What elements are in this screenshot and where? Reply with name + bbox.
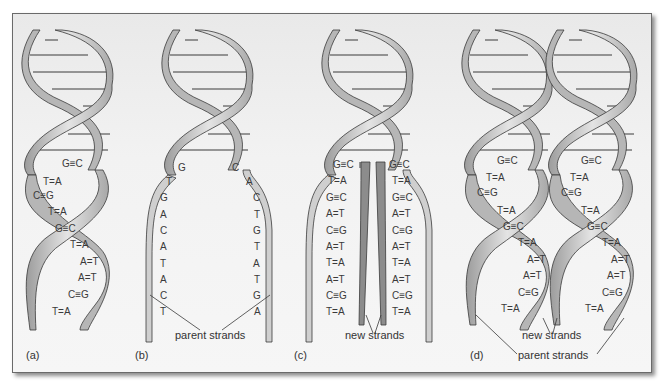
panel-label-c: (c) <box>294 349 307 361</box>
base-label: C≡G <box>477 187 498 198</box>
base-label: A <box>254 306 261 317</box>
base-label: G <box>178 162 186 173</box>
base-label: T=A <box>326 257 345 268</box>
base-pair: C≡G <box>68 289 89 300</box>
panel-label-d: (d) <box>470 349 483 361</box>
base-label: C≡G <box>561 187 582 198</box>
base-label: C≡G <box>326 225 347 236</box>
base-label: G≡C <box>581 155 602 166</box>
base-pair: G≡C <box>55 223 76 234</box>
base-label: G≡C <box>503 221 524 232</box>
base-label: T <box>160 306 166 317</box>
base-label: G≡C <box>326 192 347 203</box>
base-label: T <box>254 241 260 252</box>
base-label: A <box>160 274 167 285</box>
base-label: A <box>160 209 167 220</box>
base-label: T=A <box>602 237 621 248</box>
base-label: A=T <box>611 254 630 265</box>
base-pair: T=A <box>70 239 89 250</box>
base-label: T=A <box>328 175 347 186</box>
base-pair: A=T <box>78 272 97 283</box>
base-label: T=A <box>501 303 520 314</box>
base-label: G <box>253 290 261 301</box>
base-label: A=T <box>392 241 411 252</box>
base-label: G≡C <box>389 159 410 170</box>
base-label: T=A <box>497 205 516 216</box>
base-label: T <box>254 209 260 220</box>
base-label: A=T <box>326 208 345 219</box>
base-label: T=A <box>392 175 411 186</box>
base-label: C <box>232 162 239 173</box>
base-label: T=A <box>581 205 600 216</box>
base-label: T=A <box>392 306 411 317</box>
panel-a-helix <box>22 30 113 330</box>
base-label: T <box>254 274 260 285</box>
base-label: A <box>160 241 167 252</box>
base-pair: T=A <box>43 176 62 187</box>
panel-c-helix <box>306 30 432 342</box>
base-label: T=A <box>585 303 604 314</box>
base-pair: T=A <box>48 206 67 217</box>
base-pair: T=A <box>52 306 71 317</box>
base-label: A=T <box>326 274 345 285</box>
base-label: A=T <box>326 241 345 252</box>
base-label: C≡G <box>602 287 623 298</box>
base-label: T=A <box>392 257 411 268</box>
base-pair: G≡C <box>62 158 83 169</box>
base-label: G≡C <box>392 192 413 203</box>
base-label: T <box>166 176 172 187</box>
base-label: G≡C <box>497 155 518 166</box>
base-label: A=T <box>392 274 411 285</box>
base-label: G≡C <box>587 221 608 232</box>
base-label: C≡G <box>326 290 347 301</box>
new-strands-label-c: new strands <box>345 329 404 341</box>
base-label: A=T <box>392 208 411 219</box>
base-label: A=T <box>607 270 626 281</box>
base-label: T=A <box>570 172 589 183</box>
base-pair: A=T <box>80 256 99 267</box>
base-label: T=A <box>326 306 345 317</box>
base-label: A <box>253 258 260 269</box>
base-label: T=A <box>486 172 505 183</box>
base-label: G <box>160 192 168 203</box>
base-label: C≡G <box>392 225 413 236</box>
base-label: C <box>160 290 167 301</box>
parent-strands-label-b: parent strands <box>175 329 245 341</box>
base-label: A=T <box>527 254 546 265</box>
base-label: G≡C <box>333 159 354 170</box>
parent-strands-label-d: parent strands <box>518 349 588 361</box>
panel-label-a: (a) <box>26 349 39 361</box>
base-label: T=A <box>518 237 537 248</box>
base-label: A=T <box>523 270 542 281</box>
base-label: C≡G <box>392 290 413 301</box>
base-label: A <box>246 176 253 187</box>
panel-b-callout-lines <box>150 295 270 330</box>
base-label: C≡G <box>518 287 539 298</box>
base-label: T <box>160 258 166 269</box>
panel-label-b: (b) <box>135 349 148 361</box>
new-strands-label-d: new strands <box>522 329 581 341</box>
panel-c-left-pairs: G≡C T=A G≡C A=T C≡G A=T T=A A=T C≡G T=A <box>326 159 354 317</box>
base-label: C <box>253 192 260 203</box>
panel-c-right-pairs: G≡C T=A G≡C A=T C≡G A=T T=A A=T C≡G T=A <box>389 159 413 317</box>
base-label: C <box>160 225 167 236</box>
base-pair: C≡G <box>33 190 54 201</box>
panel-d-helix-1 <box>462 30 553 330</box>
base-label: G <box>253 225 261 236</box>
panel-d-helix-2 <box>546 30 637 330</box>
